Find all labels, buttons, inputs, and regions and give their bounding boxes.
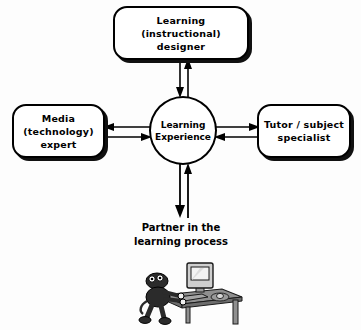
node-label-designer: Learning (instructional) designer — [137, 14, 225, 53]
node-label-tutor: Tutor / subject specialist — [260, 118, 348, 144]
node-media-technology-expert[interactable]: Media (technology) expert — [12, 104, 105, 158]
node-label-media: Media (technology) expert — [19, 112, 98, 151]
learning-experience-diagram: Learning (instructional) designer Media … — [0, 0, 361, 330]
learner-at-computer-desk-illustration — [134, 259, 246, 327]
node-label-experience: Learning Experience — [155, 119, 211, 143]
caption-partner-in-learning-process: Partner in the learning process — [96, 221, 266, 249]
node-tutor-subject-specialist[interactable]: Tutor / subject specialist — [257, 104, 351, 158]
connector-experience-partner — [166, 163, 202, 218]
connector-tutor-experience — [214, 116, 260, 148]
connector-media-experience — [103, 116, 152, 148]
node-learning-instructional-designer[interactable]: Learning (instructional) designer — [113, 6, 249, 60]
node-learning-experience[interactable]: Learning Experience — [149, 96, 217, 165]
connector-designer-experience — [166, 58, 202, 98]
